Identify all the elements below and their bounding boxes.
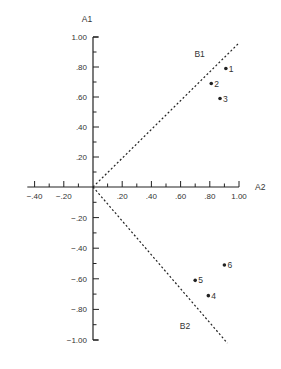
- rotated-axis-label: B1: [194, 49, 205, 59]
- factor-loading-plot: −.40−.20.20.40.60.801.001.00.80.60.40.20…: [0, 0, 281, 369]
- y-axis-title: A1: [82, 14, 93, 24]
- y-tick-label: .80: [76, 63, 88, 72]
- y-tick-label: −1.00: [67, 336, 88, 345]
- point-marker: [223, 263, 227, 267]
- y-tick-label: .60: [76, 93, 88, 102]
- x-tick-label: .20: [117, 192, 129, 201]
- data-point: 4: [207, 291, 217, 301]
- y-tick-label: −.60: [71, 275, 87, 284]
- point-label: 1: [229, 64, 234, 74]
- point-label: 4: [211, 291, 216, 301]
- point-marker: [207, 294, 211, 298]
- x-tick-label: −.40: [27, 192, 43, 201]
- x-tick-label: .80: [204, 192, 216, 201]
- data-point: 3: [218, 94, 228, 104]
- point-label: 2: [214, 79, 219, 89]
- x-tick-label: −.20: [56, 192, 72, 201]
- data-points: 123456: [193, 64, 233, 301]
- point-label: 5: [198, 275, 203, 285]
- y-tick-label: −.20: [71, 214, 87, 223]
- point-marker: [193, 279, 197, 283]
- data-point: 5: [193, 275, 203, 285]
- point-label: 6: [227, 260, 232, 270]
- x-tick-label: .40: [146, 192, 158, 201]
- point-marker: [209, 82, 213, 86]
- y-tick-label: −.40: [71, 244, 87, 253]
- x-tick-label: .60: [175, 192, 187, 201]
- rotated-axis-b2: [93, 187, 227, 343]
- rotated-axis-label: B2: [180, 321, 191, 331]
- point-marker: [224, 67, 228, 71]
- rotated-axis-b1: [93, 43, 239, 187]
- data-point: 2: [209, 79, 219, 89]
- y-tick-label: .20: [76, 153, 88, 162]
- data-point: 1: [224, 64, 234, 74]
- x-tick-label: 1.00: [231, 192, 247, 201]
- data-point: 6: [223, 260, 233, 270]
- point-label: 3: [223, 94, 228, 104]
- x-axis-title: A2: [255, 182, 266, 192]
- point-marker: [218, 97, 222, 101]
- y-tick-label: 1.00: [71, 33, 87, 42]
- y-tick-label: −.80: [71, 305, 87, 314]
- y-tick-label: .40: [76, 123, 88, 132]
